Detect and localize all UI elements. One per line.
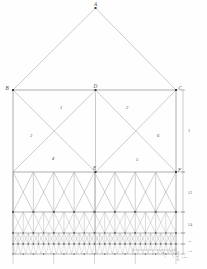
l5-zag (117, 244, 120, 254)
base-joint (104, 253, 105, 254)
base-joint (125, 253, 126, 254)
l5-zag (51, 244, 54, 254)
l5-zig (18, 244, 21, 254)
l5-zag (148, 244, 151, 254)
l5-zag (138, 244, 141, 254)
l5-zag (153, 244, 156, 254)
l5-zag (102, 244, 105, 254)
base-joint (155, 253, 156, 254)
base-joint (145, 253, 146, 254)
l5-zag (26, 244, 29, 254)
l5-zag (41, 244, 44, 254)
vertex-node-e (95, 171, 97, 173)
l5-zag (97, 244, 100, 254)
base-joint (23, 253, 24, 254)
l5-zig (13, 244, 16, 254)
l5-zag (168, 244, 171, 254)
l5-zig (38, 244, 41, 254)
l5-zig (166, 244, 169, 254)
l5-zag (123, 244, 126, 254)
roof-rafter-left (13, 8, 96, 90)
l5-zag (173, 244, 176, 254)
base-joint (74, 253, 75, 254)
l5-zig (115, 244, 118, 254)
l5-zig (95, 244, 98, 254)
l5-zig (49, 244, 52, 254)
base-joint (63, 253, 64, 254)
l5-zag (61, 244, 64, 254)
l5-zag (107, 244, 110, 254)
l5-zag (82, 244, 85, 254)
l5-zag (46, 244, 49, 254)
l5-zig (110, 244, 113, 254)
roof-rafter-right (96, 8, 177, 90)
l5-zig (79, 244, 82, 254)
vertex-node-f (175, 171, 177, 173)
l5-zig (140, 244, 143, 254)
base-joint (165, 253, 166, 254)
l5-zig (28, 244, 31, 254)
l5-zig (145, 244, 148, 254)
l5-zag (21, 244, 24, 254)
base-joint (114, 253, 115, 254)
l5-zag (143, 244, 146, 254)
l5-zag (77, 244, 80, 254)
l5-zig (33, 244, 36, 254)
l5-zag (163, 244, 166, 254)
l5-zig (125, 244, 128, 254)
base-joint (43, 253, 44, 254)
vertex-node-d (95, 89, 97, 91)
l5-zag (56, 244, 59, 254)
l5-zig (74, 244, 77, 254)
base-joint (84, 253, 85, 254)
l5-zig (84, 244, 87, 254)
l5-zag (16, 244, 19, 254)
l5-zig (44, 244, 47, 254)
l5-zig (100, 244, 103, 254)
diagram-canvas: ABDCEF12345611/21/41/81/16abcd1/32 (0, 0, 207, 269)
l5-zig (135, 244, 138, 254)
l5-zig (120, 244, 123, 254)
l5-zig (69, 244, 72, 254)
base-joint (33, 253, 34, 254)
l5-zag (31, 244, 34, 254)
l5-zag (36, 244, 39, 254)
vertex-node-b (12, 89, 14, 91)
l5-zig (59, 244, 62, 254)
l5-zag (128, 244, 131, 254)
l5-zag (112, 244, 115, 254)
l5-zag (92, 244, 95, 254)
l5-zig (89, 244, 92, 254)
l5-zig (64, 244, 67, 254)
l5-zag (158, 244, 161, 254)
truss-geometry (0, 0, 207, 269)
l5-zig (23, 244, 26, 254)
vertex-node-a (95, 7, 97, 9)
vertex-node-c (175, 89, 177, 91)
l5-zig (130, 244, 133, 254)
l5-zig (156, 244, 159, 254)
l5-zig (151, 244, 154, 254)
l5-zig (105, 244, 108, 254)
l5-zag (72, 244, 75, 254)
l5-zag (87, 244, 90, 254)
l5-zag (66, 244, 69, 254)
l5-zig (54, 244, 57, 254)
